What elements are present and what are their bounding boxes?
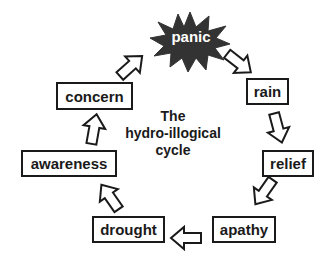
arrow-awareness-to-concern-icon xyxy=(81,112,108,145)
node-apathy: apathy xyxy=(212,216,276,243)
arrow-drought-to-awareness-icon xyxy=(92,178,127,215)
node-concern: concern xyxy=(56,82,133,110)
arrow-relief-to-apathy-icon xyxy=(246,173,281,210)
title-line-1: The xyxy=(118,108,228,125)
node-panic: panic xyxy=(160,28,222,45)
node-rain: rain xyxy=(246,78,289,105)
diagram-title: The hydro-illogical cycle xyxy=(118,108,228,159)
node-awareness: awareness xyxy=(21,150,117,177)
title-line-2: hydro-illogical xyxy=(118,125,228,142)
arrow-rain-to-relief-icon xyxy=(263,111,292,146)
arrow-concern-to-panic-icon xyxy=(112,48,149,84)
title-line-3: cycle xyxy=(118,142,228,159)
arrow-panic-to-rain-icon xyxy=(220,45,257,81)
arrow-apathy-to-drought-icon xyxy=(171,227,201,249)
node-drought: drought xyxy=(92,216,165,243)
node-relief: relief xyxy=(262,150,314,177)
